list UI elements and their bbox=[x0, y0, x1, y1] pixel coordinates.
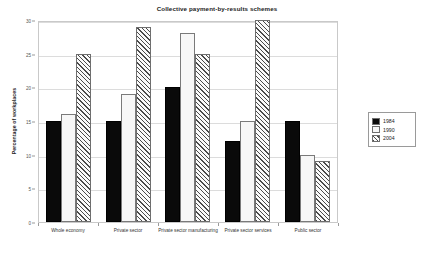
y-axis-tick-mark bbox=[32, 223, 35, 224]
y-axis-tick-mark bbox=[32, 88, 35, 89]
bar-group bbox=[158, 22, 218, 222]
bar-group bbox=[99, 22, 159, 222]
bar bbox=[285, 121, 300, 222]
y-axis-tick-mark bbox=[32, 189, 35, 190]
y-axis-tick-label: 5 bbox=[28, 187, 31, 192]
bar bbox=[315, 161, 330, 222]
bar bbox=[300, 155, 315, 222]
bar bbox=[240, 121, 255, 222]
bar bbox=[180, 33, 195, 222]
y-axis-tick-labels: 051015202530 bbox=[0, 21, 35, 223]
y-axis-tick-label: 10 bbox=[26, 153, 31, 158]
x-axis-tick-mark bbox=[338, 223, 339, 226]
legend-label: 1990 bbox=[383, 127, 395, 133]
bar bbox=[165, 87, 180, 222]
legend: 198419902004 bbox=[368, 112, 416, 147]
bar-group bbox=[277, 22, 337, 222]
plot-area bbox=[38, 21, 338, 223]
y-axis-tick-label: 15 bbox=[26, 120, 31, 125]
y-axis-tick-mark bbox=[32, 155, 35, 156]
y-axis-tick-mark bbox=[32, 21, 35, 22]
bar bbox=[46, 121, 61, 222]
x-axis-category-labels: Whole economyPrivate sectorPrivate secto… bbox=[38, 225, 338, 253]
bar-groups bbox=[39, 22, 337, 222]
legend-label: 2004 bbox=[383, 135, 395, 141]
bar bbox=[255, 20, 270, 222]
legend-label: 1984 bbox=[383, 118, 395, 124]
bar bbox=[136, 27, 151, 222]
legend-item[interactable]: 1990 bbox=[372, 126, 412, 133]
legend-item[interactable]: 1984 bbox=[372, 118, 412, 125]
y-axis-tick-mark bbox=[32, 122, 35, 123]
bar bbox=[76, 54, 91, 222]
bar-group bbox=[39, 22, 99, 222]
y-axis-tick-label: 20 bbox=[26, 86, 31, 91]
legend-swatch bbox=[372, 126, 380, 133]
bar bbox=[121, 94, 136, 222]
x-axis-category-label: Public sector bbox=[278, 225, 338, 253]
x-axis-category-label: Private sector bbox=[98, 225, 158, 253]
x-axis-category-label: Whole economy bbox=[38, 225, 98, 253]
bar bbox=[106, 121, 121, 222]
bar-group bbox=[218, 22, 278, 222]
bar bbox=[225, 141, 240, 222]
legend-item[interactable]: 2004 bbox=[372, 135, 412, 142]
legend-swatch bbox=[372, 118, 380, 125]
bar bbox=[195, 54, 210, 222]
y-axis-tick-label: 25 bbox=[26, 52, 31, 57]
bar bbox=[61, 114, 76, 222]
legend-swatch bbox=[372, 135, 380, 142]
y-axis-tick-label: 0 bbox=[28, 221, 31, 226]
y-axis-tick-mark bbox=[32, 54, 35, 55]
chart-title: Collective payment-by-results schemes bbox=[0, 5, 434, 12]
bar-chart: Collective payment-by-results schemes Pe… bbox=[0, 0, 434, 255]
x-axis-category-label: Private sector services bbox=[218, 225, 278, 253]
y-axis-tick-label: 30 bbox=[26, 19, 31, 24]
x-axis-category-label: Private sector manufacturing bbox=[158, 225, 218, 253]
